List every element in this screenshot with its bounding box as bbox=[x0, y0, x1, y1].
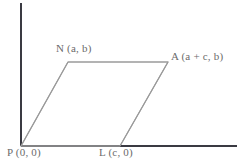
vertex-label-N: N (a, b) bbox=[56, 42, 92, 54]
vertex-label-A: A (a + c, b) bbox=[171, 50, 223, 62]
parallelogram-shape bbox=[21, 62, 168, 146]
diagram-canvas bbox=[0, 0, 241, 163]
vertex-label-P: P (0, 0) bbox=[7, 146, 41, 158]
vertex-label-L: L (c, 0) bbox=[99, 146, 133, 158]
edge-L-A bbox=[120, 62, 168, 146]
geometry-figure: N (a, b) A (a + c, b) P (0, 0) L (c, 0) bbox=[0, 0, 241, 163]
edge-P-N bbox=[21, 62, 68, 146]
